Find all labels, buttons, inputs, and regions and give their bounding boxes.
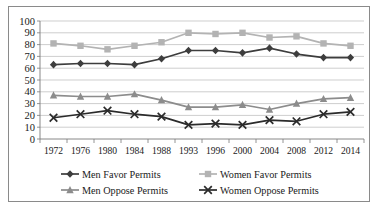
data-point-marker bbox=[239, 49, 246, 57]
data-point-marker bbox=[347, 54, 354, 62]
y-tick-label: 20 bbox=[25, 110, 36, 121]
y-tick-label: 10 bbox=[25, 122, 36, 133]
legend-marker-icon bbox=[205, 171, 211, 177]
chart-legend: Men Favor PermitsWomen Favor PermitsMen … bbox=[61, 169, 319, 196]
x-tick-label: 1988 bbox=[152, 145, 171, 156]
x-axis-tick-labels: 1972197619801984198819931996200020042008… bbox=[44, 145, 360, 156]
data-point-marker bbox=[77, 43, 83, 49]
data-point-marker bbox=[104, 60, 111, 68]
legend-marker-icon bbox=[66, 170, 73, 178]
x-tick-label: 1993 bbox=[179, 145, 198, 156]
data-point-marker bbox=[239, 30, 245, 36]
y-axis-tick-labels: 0102030405060708090100 bbox=[19, 16, 35, 145]
x-tick-label: 2008 bbox=[287, 145, 306, 156]
series-line bbox=[54, 94, 351, 109]
y-tick-label: 60 bbox=[25, 63, 36, 74]
legend-item-1[interactable]: Men Favor Permits bbox=[61, 169, 161, 180]
y-tick-label: 100 bbox=[19, 16, 35, 27]
data-point-marker bbox=[50, 40, 56, 46]
data-point-marker bbox=[185, 47, 192, 55]
gridlines bbox=[40, 21, 364, 127]
x-tick-label: 2014 bbox=[341, 145, 360, 156]
data-point-marker bbox=[131, 61, 138, 69]
x-tick-label: 2000 bbox=[233, 145, 252, 156]
data-point-marker bbox=[158, 39, 164, 45]
data-point-marker bbox=[104, 46, 110, 52]
line-chart: 0102030405060708090100 19721976198019841… bbox=[9, 7, 371, 203]
x-tick-label: 2012 bbox=[314, 145, 333, 156]
data-point-marker bbox=[266, 44, 273, 52]
x-axis-ticks bbox=[40, 139, 364, 143]
series-3 bbox=[50, 90, 354, 113]
series-line bbox=[54, 111, 351, 125]
chart-frame: 0102030405060708090100 19721976198019841… bbox=[8, 6, 370, 202]
x-tick-label: 1976 bbox=[71, 145, 90, 156]
legend-label: Men Favor Permits bbox=[82, 169, 161, 180]
y-tick-label: 90 bbox=[25, 27, 36, 38]
x-tick-label: 1984 bbox=[125, 145, 144, 156]
legend-label: Men Oppose Permits bbox=[82, 185, 168, 196]
data-point-marker bbox=[320, 54, 327, 62]
data-point-marker bbox=[320, 40, 326, 46]
data-point-marker bbox=[212, 47, 219, 55]
series-4 bbox=[50, 107, 355, 129]
x-tick-label: 1980 bbox=[98, 145, 117, 156]
data-point-marker bbox=[266, 34, 272, 40]
data-point-marker bbox=[131, 43, 137, 49]
legend-item-4[interactable]: Women Oppose Permits bbox=[199, 185, 319, 196]
data-point-marker bbox=[77, 60, 84, 68]
x-tick-label: 1996 bbox=[206, 145, 225, 156]
legend-item-2[interactable]: Women Favor Permits bbox=[199, 169, 311, 180]
y-tick-label: 70 bbox=[25, 51, 36, 62]
y-tick-label: 0 bbox=[30, 134, 35, 145]
legend-label: Women Favor Permits bbox=[220, 169, 311, 180]
data-point-marker bbox=[50, 61, 57, 69]
series-line bbox=[54, 33, 351, 50]
y-tick-label: 80 bbox=[25, 39, 36, 50]
chart-canvas: 0102030405060708090100 19721976198019841… bbox=[9, 7, 371, 203]
legend-label: Women Oppose Permits bbox=[220, 185, 319, 196]
x-tick-label: 2004 bbox=[260, 145, 279, 156]
y-tick-label: 50 bbox=[25, 75, 36, 86]
data-point-marker bbox=[185, 30, 191, 36]
legend-item-3[interactable]: Men Oppose Permits bbox=[61, 185, 168, 196]
x-tick-label: 1972 bbox=[44, 145, 63, 156]
y-tick-label: 30 bbox=[25, 98, 36, 109]
data-point-marker bbox=[347, 43, 353, 49]
data-point-marker bbox=[212, 31, 218, 37]
y-tick-label: 40 bbox=[25, 86, 36, 97]
data-point-marker bbox=[293, 33, 299, 39]
